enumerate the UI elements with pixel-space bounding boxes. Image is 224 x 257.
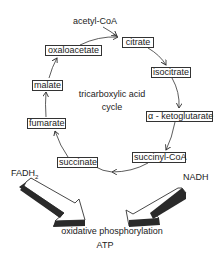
metabolite-oxaloacetate: oxaloacetate — [45, 45, 102, 56]
arrow-isocitrate-ketoglutarate — [172, 78, 179, 108]
metabolite-citrate: citrate — [122, 37, 154, 48]
arrow-fumarate-malate — [46, 92, 47, 117]
metabolite-isocitrate: isocitrate — [151, 67, 191, 78]
arrow-malate-oxaloacetate — [49, 58, 57, 78]
atp-label: ATP — [80, 240, 130, 250]
arrow-citrate-isocitrate — [148, 48, 166, 65]
fadh2-label: FADH2 — [11, 168, 38, 178]
oxidative-phosphorylation-label: oxidative phosphorylation — [50, 226, 174, 236]
acetyl-coa-label: acetyl-CoA — [73, 16, 117, 26]
metabolite-alpha-ketoglutarate: α - ketoglutarate — [146, 111, 213, 122]
tca-cycle-diagram: acetyl-CoA citrate isocitrate α - ketogl… — [0, 0, 224, 257]
nadh-block-arrow — [126, 188, 186, 227]
metabolite-malate: malate — [32, 80, 63, 91]
arrow-succinate-fumarate — [55, 131, 68, 157]
metabolite-succinyl-coa: succinyl-CoA — [132, 152, 186, 163]
metabolite-fumarate: fumarate — [27, 118, 66, 129]
acetyl-coa-arrow — [103, 27, 117, 36]
arrow-ketoglutarate-succinylcoa — [166, 122, 175, 150]
arrow-succinylcoa-succinate — [112, 163, 148, 172]
fadh2-main: FADH — [11, 168, 35, 178]
cycle-title-line1: tricarboxylic acid — [72, 89, 152, 99]
nadh-label: NADH — [183, 172, 209, 182]
cycle-title-line2: cycle — [72, 102, 152, 112]
metabolite-succinate: succinate — [57, 157, 98, 168]
arrow-oxaloacetate-citrate — [80, 37, 118, 45]
fadh2-block-arrow — [19, 178, 85, 227]
fadh2-subscript: 2 — [35, 174, 38, 180]
